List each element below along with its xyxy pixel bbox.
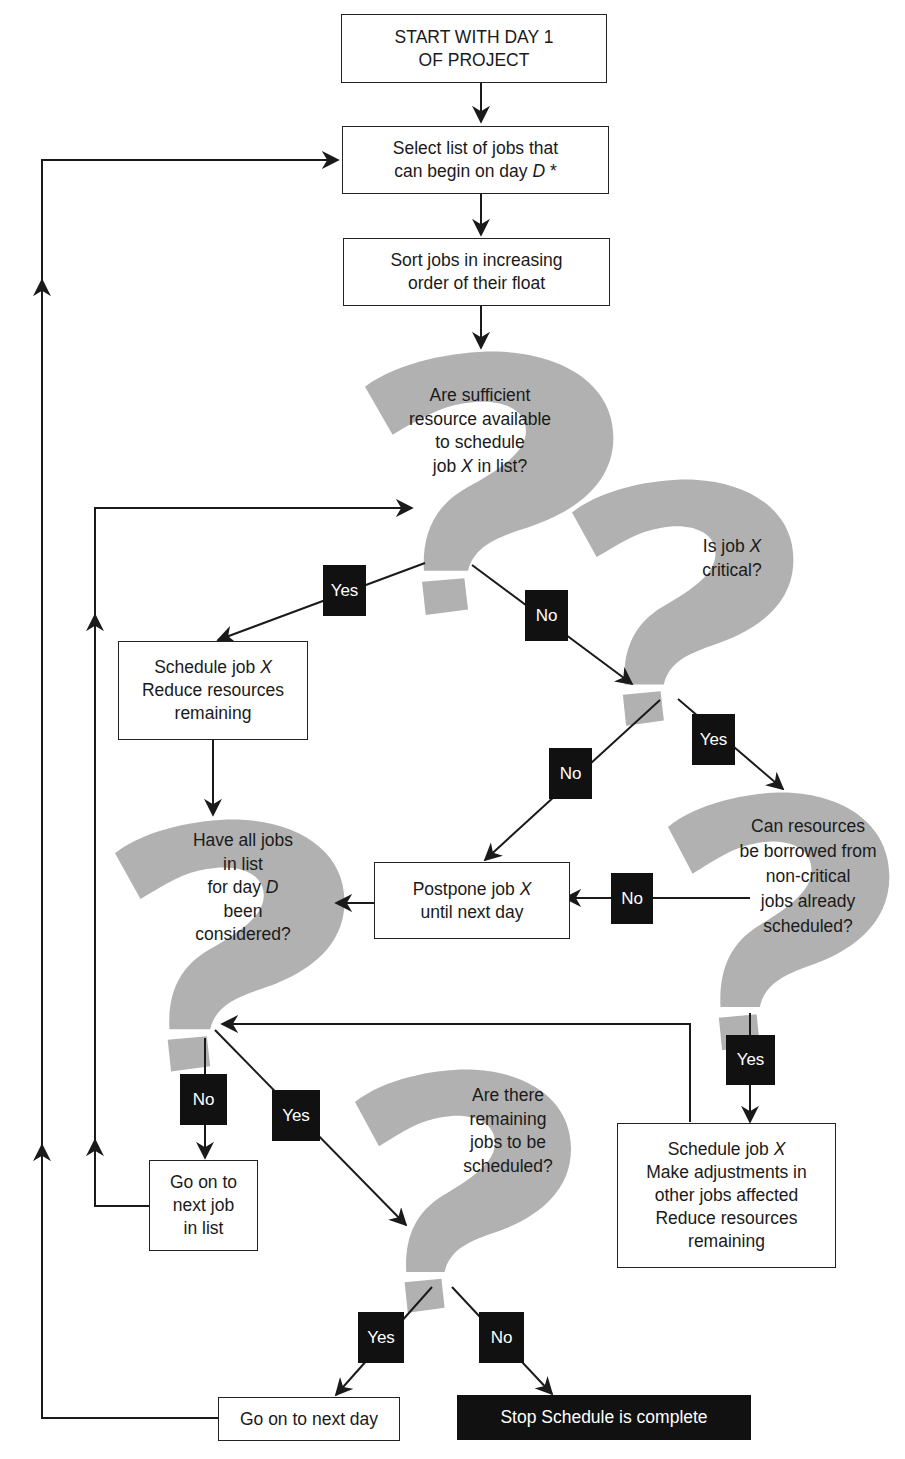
tag-considered-no: No bbox=[180, 1074, 227, 1125]
text: Make adjustments in bbox=[646, 1161, 807, 1184]
question-is-critical: Is job X critical? bbox=[682, 535, 782, 582]
tag-borrow-no: No bbox=[611, 873, 653, 924]
text: Schedule job bbox=[668, 1139, 774, 1159]
text: critical? bbox=[682, 559, 782, 583]
text: Is job bbox=[703, 536, 750, 556]
postpone-job-node: Postpone job X until next day bbox=[374, 862, 570, 939]
text: jobs already bbox=[728, 889, 888, 914]
variable-x: X bbox=[461, 456, 473, 476]
text: Is job X bbox=[682, 535, 782, 559]
tag-sufficient-no: No bbox=[525, 590, 568, 641]
select-line-1: Select list of jobs that bbox=[393, 137, 558, 160]
text: Postpone job X bbox=[413, 878, 532, 901]
text: job bbox=[433, 456, 461, 476]
variable-x: X bbox=[750, 536, 762, 556]
tag-critical-yes: Yes bbox=[692, 714, 735, 765]
text: Schedule job X bbox=[142, 656, 284, 679]
sort-line-1: Sort jobs in increasing bbox=[390, 249, 562, 272]
schedule-job-node: Schedule job X Reduce resources remainin… bbox=[118, 641, 308, 740]
text: for day D bbox=[178, 876, 308, 900]
tag-sufficient-yes: Yes bbox=[323, 565, 366, 616]
text: next job bbox=[170, 1194, 237, 1217]
text: scheduled? bbox=[728, 914, 888, 939]
text: remaining bbox=[448, 1108, 568, 1132]
variable-d: D bbox=[532, 161, 545, 181]
select-jobs-node: Select list of jobs that can begin on da… bbox=[342, 126, 609, 194]
text: Schedule job bbox=[154, 657, 260, 677]
text: other jobs affected bbox=[646, 1184, 807, 1207]
text: jobs to be bbox=[448, 1131, 568, 1155]
tag-borrow-yes: Yes bbox=[726, 1035, 775, 1085]
text: been bbox=[178, 900, 308, 924]
question-borrow-resources: Can resources be borrowed from non-criti… bbox=[728, 814, 888, 939]
text: resource available bbox=[380, 408, 580, 432]
tag-critical-no: No bbox=[549, 748, 592, 799]
text: Reduce resources bbox=[646, 1207, 807, 1230]
variable-x: X bbox=[774, 1139, 786, 1159]
question-remaining-jobs: Are there remaining jobs to be scheduled… bbox=[448, 1084, 568, 1178]
text: Postpone job bbox=[413, 879, 520, 899]
text: Go on to bbox=[170, 1171, 237, 1194]
text: Are sufficient bbox=[380, 384, 580, 408]
start-line-1: START WITH DAY 1 bbox=[395, 26, 554, 49]
text: * bbox=[545, 161, 557, 181]
text: Are there bbox=[448, 1084, 568, 1108]
question-shape-critical bbox=[572, 480, 793, 726]
text: until next day bbox=[413, 901, 532, 924]
text: Schedule job X bbox=[646, 1138, 807, 1161]
text: Have all jobs bbox=[178, 829, 308, 853]
sort-jobs-node: Sort jobs in increasing order of their f… bbox=[343, 238, 610, 306]
stop-node: Stop Schedule is complete bbox=[457, 1395, 751, 1440]
question-sufficient-resources: Are sufficient resource available to sch… bbox=[380, 384, 580, 478]
flowchart: START WITH DAY 1 OF PROJECT Select list … bbox=[0, 0, 905, 1459]
sort-line-2: order of their float bbox=[390, 272, 562, 295]
select-line-2: can begin on day D * bbox=[393, 160, 558, 183]
text: in list bbox=[178, 853, 308, 877]
text: Go on to next day bbox=[240, 1408, 378, 1431]
text: in list? bbox=[473, 456, 527, 476]
start-line-2: OF PROJECT bbox=[395, 49, 554, 72]
schedule-adjust-node: Schedule job X Make adjustments in other… bbox=[617, 1123, 836, 1268]
tag-remaining-yes: Yes bbox=[358, 1312, 404, 1363]
text: job X in list? bbox=[380, 455, 580, 479]
text: Stop Schedule is complete bbox=[500, 1406, 707, 1429]
text: to schedule bbox=[380, 431, 580, 455]
start-node: START WITH DAY 1 OF PROJECT bbox=[341, 14, 607, 83]
text: for day bbox=[207, 877, 265, 897]
tag-remaining-no: No bbox=[479, 1312, 524, 1363]
text: Can resources bbox=[728, 814, 888, 839]
next-job-node: Go on to next job in list bbox=[149, 1160, 258, 1251]
text: Reduce resources bbox=[142, 679, 284, 702]
variable-d: D bbox=[266, 877, 279, 897]
text: remaining bbox=[142, 702, 284, 725]
text: can begin on day bbox=[394, 161, 532, 181]
text: be borrowed from bbox=[728, 839, 888, 864]
text: non-critical bbox=[728, 864, 888, 889]
variable-x: X bbox=[520, 879, 532, 899]
text: in list bbox=[170, 1217, 237, 1240]
text: scheduled? bbox=[448, 1155, 568, 1179]
tag-considered-yes: Yes bbox=[272, 1090, 320, 1141]
variable-x: X bbox=[260, 657, 272, 677]
question-all-jobs-considered: Have all jobs in list for day D been con… bbox=[178, 829, 308, 947]
text: remaining bbox=[646, 1230, 807, 1253]
text: considered? bbox=[178, 923, 308, 947]
next-day-node: Go on to next day bbox=[218, 1397, 400, 1441]
